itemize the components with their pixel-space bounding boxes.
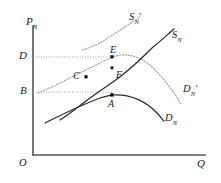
point-label-F-text: F [116,69,122,80]
origin-label-text: O [19,157,27,168]
origin-label: O [19,158,27,169]
point-label-A-text: A [108,98,114,109]
point-marker-E [110,55,113,58]
curve-label-demand-shifted: DN′ [183,84,197,97]
y-axis-label-sub: N [33,23,38,30]
curve-label-supply-shifted-sub: N [134,18,138,25]
curve-label-demand-shifted-prime: ′ [195,83,197,94]
price-level-D-text: D [19,49,27,61]
point-marker-A [110,93,113,96]
curve-label-demand-original-sub: N [173,119,177,126]
price-level-label-B: B [20,85,27,96]
point-marker-F [111,66,114,69]
curve-label-demand-shifted-sub: N [191,90,195,97]
price-level-B-text: B [20,84,27,96]
curve-label-demand-original: DN [165,113,177,126]
curve-label-supply-shifted: SN′ [129,12,141,25]
figure-canvas: PN Q O D B SN′ SN DN′ DN A C E F [0,0,221,183]
point-label-A: A [108,99,114,109]
curve-label-demand-original-main: D [165,112,173,123]
y-axis-label-main: P [26,15,33,27]
point-marker-C [84,75,87,78]
curve-label-supply-original: SN [172,30,182,43]
price-level-label-D: D [19,50,27,61]
point-label-E: E [110,45,116,55]
curve-demand-shifted [38,55,181,104]
point-label-C: C [73,71,80,81]
x-axis-label: Q [197,158,205,169]
x-axis-label-main: Q [197,157,205,169]
point-label-E-text: E [110,44,116,55]
point-label-F: F [116,70,122,80]
curve-label-demand-shifted-main: D [183,83,191,94]
curve-label-supply-original-sub: N [177,36,181,43]
y-axis-label: PN [26,16,37,30]
point-label-C-text: C [73,70,80,81]
